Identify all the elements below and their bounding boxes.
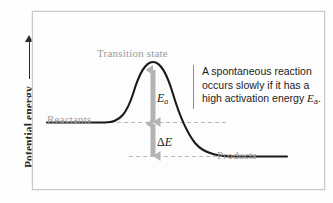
annotation-ea-symbol: E xyxy=(307,92,314,104)
delta-symbol: Δ xyxy=(157,135,165,149)
annotation-line-3: high activation energy Ea. xyxy=(202,92,325,109)
annotation-period: . xyxy=(318,92,321,104)
delta-energy-symbol: E xyxy=(165,135,172,149)
chart-panel: Transition state Reactants Products Ea Δ… xyxy=(32,11,325,190)
annotation-line-1: A spontaneous reaction xyxy=(202,65,325,79)
annotation-line-3-text: high activation energy xyxy=(202,92,307,104)
activation-energy-subscript: a xyxy=(164,97,168,106)
delta-energy-label: ΔE xyxy=(157,135,172,150)
reactants-label: Reactants xyxy=(47,113,92,125)
annotation-line-2: occurs slowly if it has a xyxy=(202,79,325,93)
transition-state-label: Transition state xyxy=(97,47,168,59)
products-label: Products xyxy=(217,149,257,161)
potential-energy-diagram: Potential energy xyxy=(0,0,333,203)
activation-energy-label: Ea xyxy=(157,91,168,106)
annotation-note: A spontaneous reaction occurs slowly if … xyxy=(193,65,325,109)
